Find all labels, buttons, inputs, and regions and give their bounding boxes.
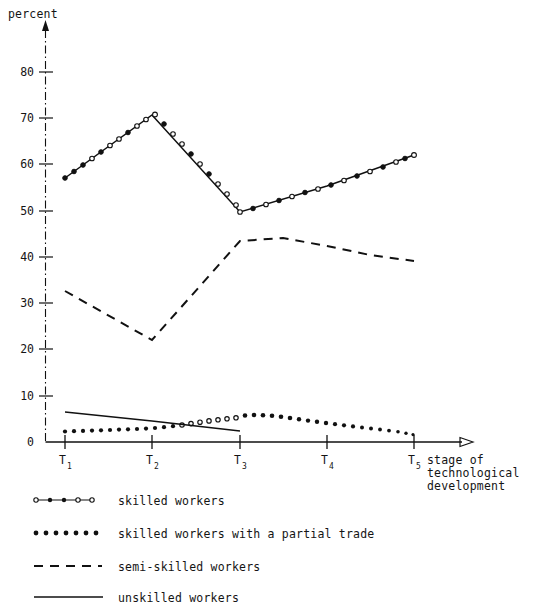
series-skilled-workers-markers [63,112,417,214]
x-tick-label-t5: T [408,453,415,467]
x-tick-sub-t4: 4 [329,462,334,471]
legend-item-skilled-workers-partial-trade[interactable]: skilled workers with a partial trade [34,527,375,541]
y-tick-label-30: 30 [20,296,34,310]
legend-marker-dotted-icon [34,531,99,536]
legend-label-skilled-workers-partial-trade: skilled workers with a partial trade [118,527,374,541]
y-tick-label-10: 10 [20,389,34,403]
y-tick-labels: 80 70 60 50 40 30 20 10 0 [20,65,34,449]
legend-item-skilled-workers[interactable]: skilled workers [34,494,225,508]
y-axis [42,20,49,442]
y-tick-label-50: 50 [20,204,34,218]
series-skilled-workers-line [65,115,414,212]
series-semi-skilled-workers [65,238,414,340]
y-tick-label-20: 20 [20,342,34,356]
x-axis [46,438,474,447]
y-tick-label-60: 60 [20,157,34,171]
x-axis-title-line2: technological [427,466,520,480]
legend-label-unskilled-workers: unskilled workers [118,591,239,605]
y-tick-label-0: 0 [27,435,34,449]
y-tick-label-70: 70 [20,111,34,125]
x-tick-label-t2: T [146,453,153,467]
x-tick-sub-t3: 3 [242,462,247,471]
legend-item-unskilled-workers[interactable]: unskilled workers [34,591,239,605]
x-axis-title-line3: development [427,479,505,493]
x-axis-title-line1: stage of [427,453,484,467]
x-tick-sub-t2: 2 [154,462,159,471]
x-tick-label-t3: T [234,453,241,467]
x-axis-title: stage of technological development [427,453,520,493]
legend-label-semi-skilled-workers: semi-skilled workers [118,560,260,574]
chart-figure: percent 80 70 60 50 40 30 20 10 [0,0,539,611]
legend-marker-circle-line-icon [34,498,94,502]
x-tick-label-t1: T [59,453,66,467]
y-tick-label-40: 40 [20,250,34,264]
y-tick-label-80: 80 [20,65,34,79]
legend-label-skilled-workers: skilled workers [118,494,225,508]
y-axis-title: percent [8,7,58,21]
x-tick-sub-t1: 1 [67,462,72,471]
x-tick-label-t4: T [321,453,328,467]
x-tick-labels: T 1 T 2 T 3 T 4 T 5 [59,453,421,471]
chart-legend: skilled workers skilled workers with a p… [34,494,375,605]
x-tick-sub-t5: 5 [416,462,421,471]
legend-item-semi-skilled-workers[interactable]: semi-skilled workers [34,560,260,574]
y-axis-arrow-icon [42,20,49,31]
series-skilled-workers-partial-trade [63,413,415,437]
series-unskilled-workers [65,412,240,431]
